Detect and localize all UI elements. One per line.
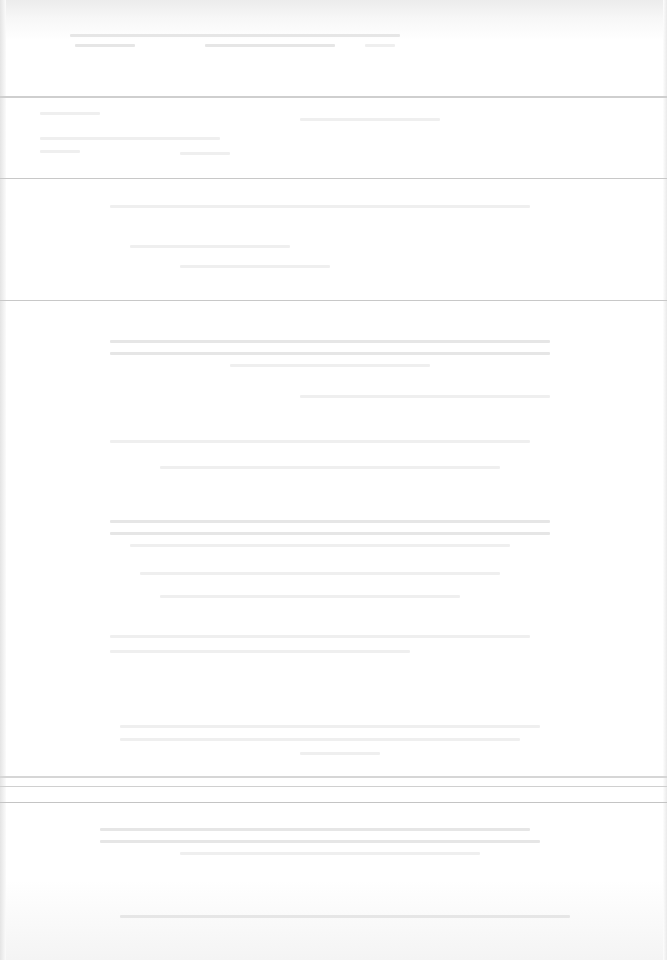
text-line [180, 852, 480, 855]
header-text-line [70, 34, 400, 37]
text-line [40, 137, 220, 140]
scan-edge-right [663, 0, 667, 960]
text-line [110, 532, 550, 535]
text-line [40, 112, 100, 115]
text-line [160, 466, 500, 469]
text-line [100, 828, 530, 831]
text-line [120, 738, 520, 741]
text-line [160, 595, 460, 598]
text-line [110, 205, 530, 208]
text-line [130, 245, 290, 248]
text-line [300, 395, 550, 398]
section-rule [0, 178, 667, 179]
header-rule [0, 96, 667, 98]
text-line [110, 352, 550, 355]
text-line [180, 265, 330, 268]
text-line [230, 364, 430, 367]
footer-rule-1 [0, 776, 667, 778]
text-line [110, 520, 550, 523]
text-line [40, 150, 80, 153]
section-rule [0, 300, 667, 301]
text-line [180, 152, 230, 155]
text-line [300, 752, 380, 755]
text-line [110, 650, 410, 653]
text-line [120, 915, 570, 918]
footer-rule-2 [0, 786, 667, 787]
text-line [100, 840, 540, 843]
header-text-line [365, 44, 395, 47]
text-line [110, 635, 530, 638]
text-line [110, 340, 550, 343]
text-line [130, 544, 510, 547]
text-line [120, 725, 540, 728]
text-line [300, 118, 440, 121]
text-line [140, 572, 500, 575]
text-line [110, 440, 530, 443]
header-text-line [75, 44, 135, 47]
header-text-line [205, 44, 335, 47]
scan-edge-left [0, 0, 6, 960]
footer-rule-3 [0, 802, 667, 803]
